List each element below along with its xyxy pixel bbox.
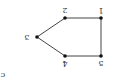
node-label-2: 2 [62, 6, 67, 15]
node-label-1: 1 [98, 6, 103, 15]
edge-3-4 [37, 37, 65, 56]
edge-2-3 [37, 18, 65, 37]
node-3 [35, 35, 39, 39]
pentagon-graph-diagram: 1 2 3 4 5 c [0, 0, 113, 82]
subfigure-label: c [0, 71, 5, 80]
edges [37, 18, 101, 56]
node-2 [63, 16, 67, 20]
node-label-5: 5 [98, 59, 103, 68]
node-1 [99, 16, 103, 20]
node-4 [63, 54, 67, 58]
node-label-3: 3 [24, 33, 29, 42]
node-labels: 1 2 3 4 5 c [0, 6, 103, 80]
node-label-4: 4 [62, 59, 67, 68]
node-5 [99, 54, 103, 58]
nodes [35, 16, 103, 58]
